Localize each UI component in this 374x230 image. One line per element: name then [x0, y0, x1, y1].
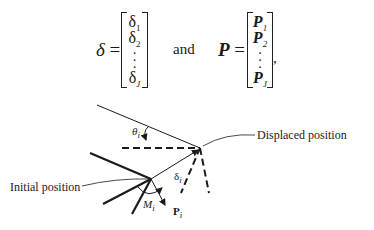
displaced-member-line	[97, 105, 200, 148]
theta-arc-icon	[145, 127, 148, 140]
displaced-position-label: Displaced position	[257, 128, 347, 143]
displacement-diagram	[0, 0, 374, 230]
initial-position-label: Initial position	[10, 180, 80, 195]
displaced-dashed-member-2	[200, 148, 209, 193]
moment-label: Mi	[143, 198, 155, 213]
theta-label: θi	[132, 125, 140, 140]
force-label: Pi	[173, 205, 182, 220]
displaced-leader-line	[203, 135, 255, 146]
initial-member-1	[90, 153, 151, 179]
delta-label: δi	[174, 170, 182, 185]
